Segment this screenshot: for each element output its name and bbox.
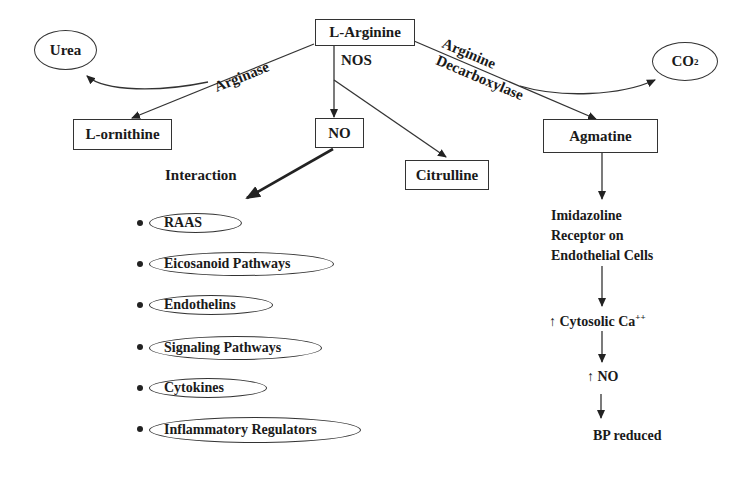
interaction-inflammatory: Inflammatory Regulators [149,417,361,443]
bullet [137,426,143,432]
interaction-label: Cytokines [164,380,224,396]
node-label: Citrulline [416,167,479,184]
interaction-eicosanoid: Eicosanoid Pathways [149,252,334,276]
interaction-raas: RAAS [149,213,242,233]
no-increase-text: ↑ NO [587,367,619,387]
imidazoline-receptor-text: Imidazoline Receptor on Endothelial Cell… [551,206,653,266]
interaction-label: Signaling Pathways [164,340,281,356]
node-no: NO [315,118,364,148]
node-label: Urea [50,42,81,59]
node-l-arginine: L-Arginine [315,19,415,46]
bullet [137,385,143,391]
receptor-line-1: Imidazoline [551,206,653,226]
receptor-line-3: Endothelial Cells [551,246,653,266]
bp-reduced-text: BP reduced [593,426,662,446]
node-l-ornithine: L-ornithine [73,119,172,150]
node-label: L-ornithine [85,126,159,143]
interaction-endothelins: Endothelins [149,295,273,315]
edge-label-nos: NOS [341,52,372,69]
node-label: NO [328,125,351,142]
node-label: Agmatine [569,128,632,145]
subscript: 2 [694,57,699,67]
node-label: CO [672,53,695,70]
bullet [137,220,143,226]
node-co2: CO2 [652,42,718,81]
interaction-label: Inflammatory Regulators [164,422,317,438]
interaction-label: RAAS [164,215,202,231]
bullet [137,261,143,267]
edge-label-interaction: Interaction [165,167,237,184]
interaction-label: Endothelins [164,297,236,313]
receptor-line-2: Receptor on [551,226,653,246]
interaction-cytokines: Cytokines [149,378,267,398]
node-agmatine: Agmatine [543,119,658,153]
cytosolic-calcium-text: ↑ Cytosolic Ca++ [549,307,646,332]
node-citrulline: Citrulline [405,160,489,190]
node-label: L-Arginine [329,24,401,41]
calcium-label: ↑ Cytosolic Ca [549,314,635,329]
node-urea: Urea [34,30,97,70]
bp-label: BP reduced [593,428,662,443]
interaction-signaling: Signaling Pathways [149,336,322,360]
bullet [137,302,143,308]
interaction-label: Eicosanoid Pathways [164,256,290,272]
superscript: ++ [635,312,645,322]
no-up-label: ↑ NO [587,369,619,384]
bullet [137,344,143,350]
